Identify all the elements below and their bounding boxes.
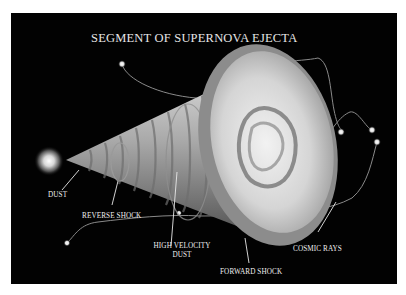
diagram-title: SEGMENT OF SUPERNOVA EJECTA	[11, 31, 396, 46]
label-high-velocity-dust-line2: DUST	[151, 251, 213, 260]
diagram-panel: SEGMENT OF SUPERNOVA EJECTA DUST REVERSE…	[11, 13, 397, 284]
label-high-velocity-dust: HIGH VELOCITY DUST	[151, 242, 213, 259]
label-reverse-shock: REVERSE SHOCK	[82, 212, 141, 221]
label-dust: DUST	[48, 191, 67, 200]
label-cosmic-rays: COSMIC RAYS	[293, 245, 342, 254]
label-forward-shock: FORWARD SHOCK	[220, 268, 282, 277]
label-high-velocity-dust-line1: HIGH VELOCITY	[151, 242, 213, 251]
dust-glow	[34, 146, 64, 176]
forward-shock-dish	[180, 31, 355, 259]
